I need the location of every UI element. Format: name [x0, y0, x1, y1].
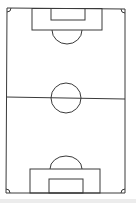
top-goal-area: [51, 9, 85, 21]
top-penalty-area: [32, 9, 102, 31]
top-penalty-arc: [52, 30, 82, 44]
corner-arc-bottom-left: [6, 189, 10, 193]
left-touchline: [6, 8, 7, 193]
bottom-penalty-area: [30, 169, 100, 193]
corner-arc-top-right: [121, 9, 125, 13]
corner-arc-top-left: [7, 8, 11, 12]
bottom-shadow-band: [0, 199, 136, 203]
bottom-penalty-arc: [50, 156, 82, 169]
bottom-goal-area: [49, 179, 83, 193]
halfway-line: [6, 97, 125, 99]
corner-arc-bottom-right: [121, 189, 125, 193]
soccer-pitch-diagram: [0, 0, 136, 203]
